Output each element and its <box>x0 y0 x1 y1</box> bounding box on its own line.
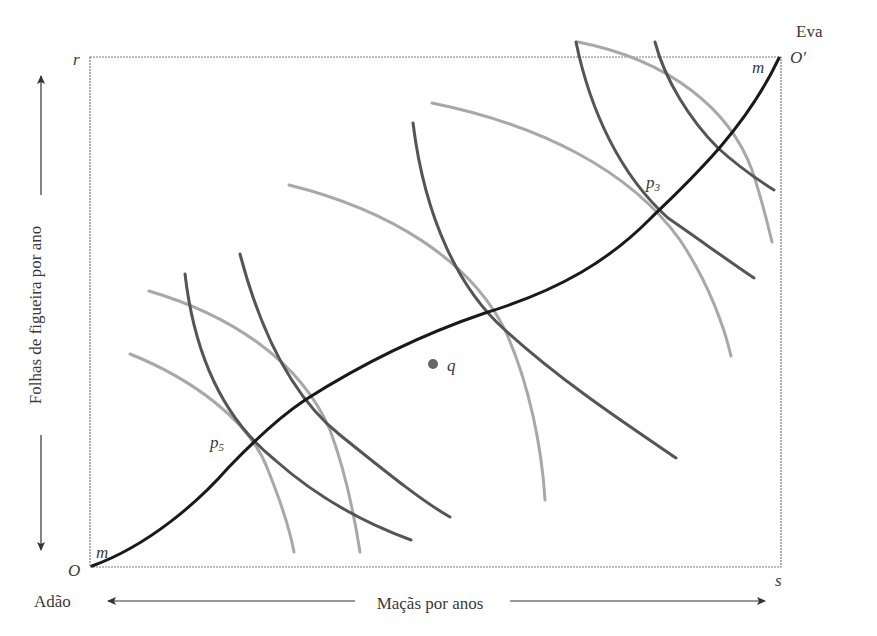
point-label-p5: p5 <box>210 433 224 453</box>
adao-label: Adão <box>34 592 71 612</box>
point-q-marker <box>428 359 438 369</box>
contract-curve-label-end: m <box>752 58 764 78</box>
edgeworth-box-diagram <box>0 0 877 636</box>
eva-indifference-curves <box>130 42 772 552</box>
corner-label-o-prime: O′ <box>790 48 806 68</box>
corner-label-s: s <box>775 571 782 591</box>
y-axis-label: Folhas de figueira por ano <box>26 220 46 410</box>
corner-label-r: r <box>73 50 80 70</box>
point-label-p3: p3 <box>646 173 660 193</box>
point-label-q: q <box>447 356 456 376</box>
eva-label: Eva <box>796 22 822 42</box>
contract-curve <box>92 58 779 566</box>
contract-curve-label-start: m <box>96 543 108 563</box>
edgeworth-box-frame <box>90 57 781 567</box>
x-axis-label: Maçãs por anos <box>369 594 492 614</box>
corner-label-o: O <box>68 561 80 581</box>
